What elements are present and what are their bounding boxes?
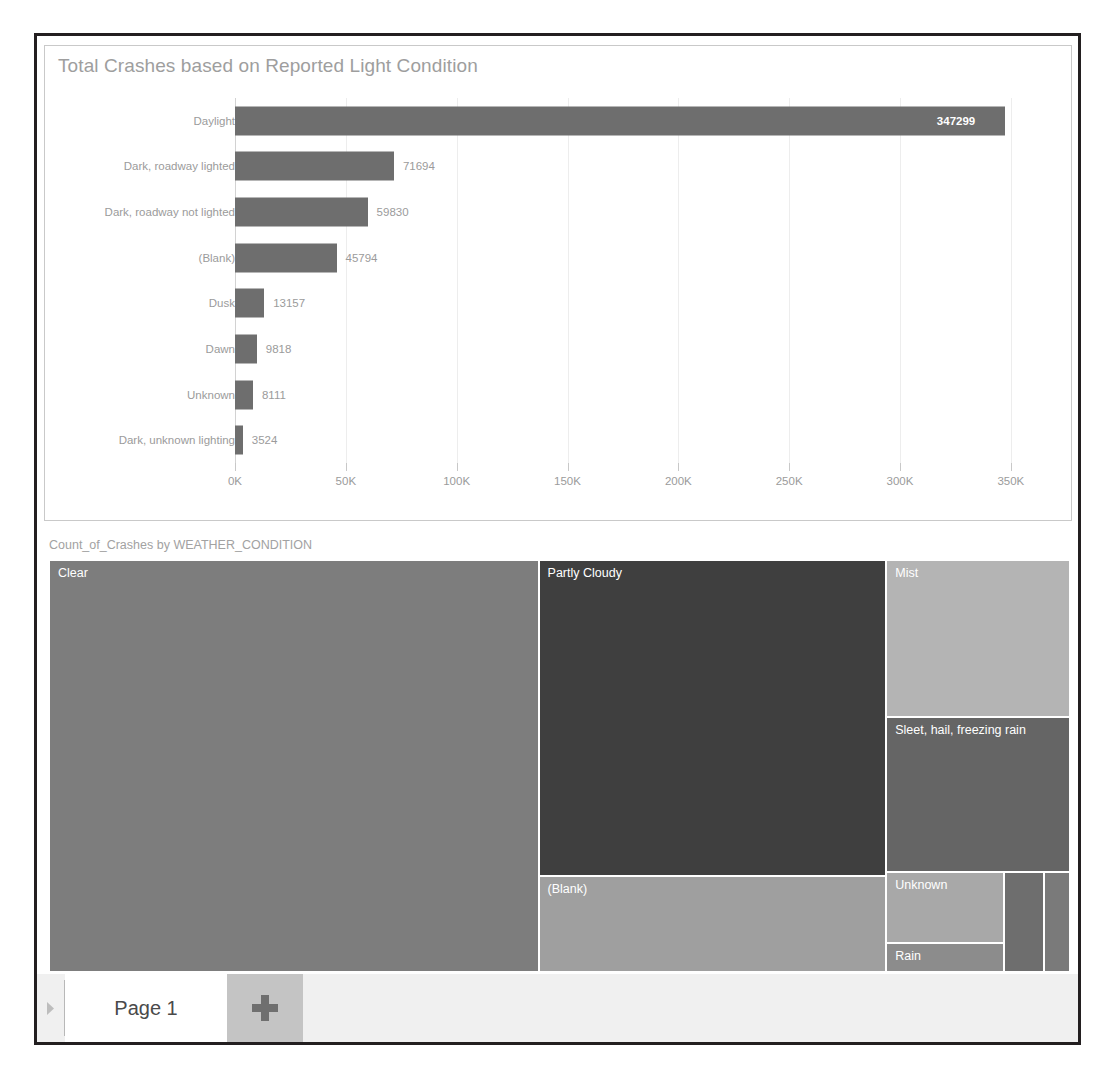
bar-category-label: Dusk xyxy=(45,297,235,309)
treemap-tile-label: Clear xyxy=(58,566,88,580)
bar-value-label: 59830 xyxy=(377,206,409,218)
axis-tick xyxy=(1011,463,1012,471)
bar-value-axis: 0K50K100K150K200K250K300K350K xyxy=(235,463,1033,503)
bar-value-label: 71694 xyxy=(403,160,435,172)
treemap-visual[interactable]: Count_of_Crashes by WEATHER_CONDITION Cl… xyxy=(44,538,1072,974)
treemap-tile-label: Rain xyxy=(895,949,921,963)
bar-value-label: 8111 xyxy=(262,389,286,401)
treemap-tile-label: (Blank) xyxy=(548,882,588,896)
treemap-tile[interactable]: Unknown xyxy=(886,872,1003,943)
bar[interactable] xyxy=(235,289,264,318)
treemap-tile[interactable]: Mist xyxy=(886,560,1070,717)
bar-value-label: 3524 xyxy=(252,434,278,446)
axis-tick-label: 350K xyxy=(997,475,1024,487)
page-tab-page-1[interactable]: Page 1 xyxy=(65,974,227,1042)
gridline xyxy=(457,98,458,463)
treemap-tile[interactable]: Clear xyxy=(49,560,539,972)
bar-value-label: 347299 xyxy=(937,115,975,127)
axis-tick-label: 200K xyxy=(665,475,692,487)
axis-tick-label: 150K xyxy=(554,475,581,487)
treemap-tile[interactable] xyxy=(1044,872,1070,972)
bar-category-label: Dark, roadway lighted xyxy=(45,160,235,172)
axis-tick xyxy=(900,463,901,471)
bar[interactable] xyxy=(235,243,337,272)
plus-icon xyxy=(252,995,278,1021)
axis-tick xyxy=(346,463,347,471)
page-tab-label: Page 1 xyxy=(114,997,177,1020)
axis-tick-label: 300K xyxy=(887,475,914,487)
bar-value-label: 9818 xyxy=(266,343,292,355)
treemap-tile[interactable] xyxy=(1004,872,1045,972)
bar-value-label: 13157 xyxy=(273,297,305,309)
axis-tick-label: 250K xyxy=(776,475,803,487)
axis-tick-label: 0K xyxy=(228,475,242,487)
axis-tick-label: 100K xyxy=(443,475,470,487)
bar-chart-visual[interactable]: Total Crashes based on Reported Light Co… xyxy=(44,45,1072,521)
gridline xyxy=(678,98,679,463)
bar-category-label: Daylight xyxy=(45,115,235,127)
report-frame: Total Crashes based on Reported Light Co… xyxy=(34,33,1081,1045)
gridline xyxy=(789,98,790,463)
treemap-tile-label: Sleet, hail, freezing rain xyxy=(895,723,1026,737)
page-tab-bar: Page 1 xyxy=(37,973,1078,1042)
treemap-tile[interactable]: (Blank) xyxy=(539,876,887,972)
treemap-tile-label: Mist xyxy=(895,566,918,580)
bar-chart-plot: DaylightDark, roadway lightedDark, roadw… xyxy=(45,98,1073,522)
bar-category-label: Dawn xyxy=(45,343,235,355)
bar[interactable] xyxy=(235,334,257,363)
bar-category-label: Dark, unknown lighting xyxy=(45,434,235,446)
axis-tick xyxy=(235,463,236,471)
axis-tick xyxy=(678,463,679,471)
treemap-title: Count_of_Crashes by WEATHER_CONDITION xyxy=(49,538,312,552)
bar[interactable] xyxy=(235,426,243,455)
chevron-left-icon[interactable] xyxy=(37,974,64,1042)
gridline xyxy=(568,98,569,463)
treemap-tile[interactable]: Rain xyxy=(886,943,1003,972)
axis-tick xyxy=(457,463,458,471)
axis-tick-label: 50K xyxy=(336,475,356,487)
bar-chart-title: Total Crashes based on Reported Light Co… xyxy=(58,55,478,77)
bar-plot-surface: 34729971694598304579413157981881113524 xyxy=(235,98,1033,463)
bar[interactable] xyxy=(235,106,1005,135)
treemap-area: ClearPartly Cloudy(Blank)MistSleet, hail… xyxy=(49,560,1070,972)
axis-tick xyxy=(568,463,569,471)
treemap-tile-label: Unknown xyxy=(895,878,947,892)
treemap-tile[interactable]: Sleet, hail, freezing rain xyxy=(886,717,1070,872)
bar[interactable] xyxy=(235,198,368,227)
axis-tick xyxy=(789,463,790,471)
treemap-tile-label: Partly Cloudy xyxy=(548,566,622,580)
bar-category-axis: DaylightDark, roadway lightedDark, roadw… xyxy=(45,98,235,463)
bar-category-label: Unknown xyxy=(45,389,235,401)
bar-category-label: (Blank) xyxy=(45,252,235,264)
bar-category-label: Dark, roadway not lighted xyxy=(45,206,235,218)
gridline xyxy=(900,98,901,463)
treemap-tile[interactable]: Partly Cloudy xyxy=(539,560,887,876)
bar[interactable] xyxy=(235,380,253,409)
bar-value-label: 45794 xyxy=(346,252,378,264)
bar[interactable] xyxy=(235,152,394,181)
add-page-button[interactable] xyxy=(227,974,303,1042)
gridline xyxy=(1011,98,1012,463)
